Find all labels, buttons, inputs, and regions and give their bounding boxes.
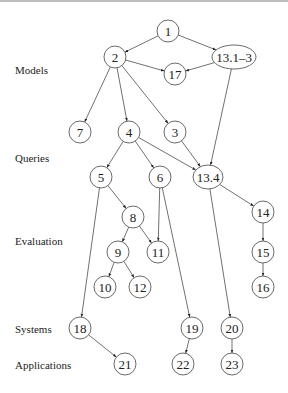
- node-label: 7: [77, 125, 84, 140]
- level-label-models: Models: [15, 64, 48, 76]
- edge-6-to-11: [158, 188, 159, 241]
- node-label: 9: [115, 245, 122, 260]
- edge-4-to-6: [135, 141, 154, 168]
- edge-13.4-to-14: [220, 184, 254, 206]
- edge-9-to-10: [109, 262, 114, 276]
- node-label: 21: [119, 357, 132, 372]
- level-labels: ModelsQueriesEvaluationSystemsApplicatio…: [15, 64, 71, 371]
- edge-2-to-7: [85, 67, 111, 122]
- node-22: 22: [172, 353, 194, 375]
- edge-4-to-13.4: [139, 137, 196, 170]
- node-16: 16: [252, 276, 274, 298]
- node-label: 16: [257, 280, 271, 295]
- node-label: 10: [99, 280, 112, 295]
- edge-5-to-18: [82, 188, 100, 317]
- node-label: 5: [98, 170, 105, 185]
- edge-18-to-21: [89, 335, 117, 357]
- node-11: 11: [147, 241, 169, 263]
- edge-4-to-5: [107, 141, 123, 167]
- node-8: 8: [122, 206, 144, 228]
- edge-9-to-12: [124, 261, 134, 277]
- node-10: 10: [94, 276, 116, 298]
- node-label: 18: [74, 321, 87, 336]
- edge-2-to-4: [117, 68, 127, 121]
- level-label-queries: Queries: [15, 152, 49, 164]
- node-9: 9: [107, 241, 129, 263]
- edge-1-to-13.1-3: [178, 35, 216, 50]
- nodes: 1213.1–3177435613.4814911151012161819202…: [69, 20, 274, 375]
- node-label: 12: [134, 280, 147, 295]
- node-label: 14: [257, 205, 271, 220]
- node-21: 21: [114, 353, 136, 375]
- level-label-evaluation: Evaluation: [15, 235, 63, 247]
- node-13.4: 13.4: [193, 165, 223, 189]
- edge-13.1-3-to-13.4: [211, 69, 232, 165]
- node-label: 2: [112, 50, 119, 65]
- node-label: 19: [186, 321, 199, 336]
- edge-2-to-17: [126, 60, 165, 71]
- node-23: 23: [221, 353, 243, 375]
- node-label: 11: [152, 245, 165, 260]
- node-17: 17: [164, 63, 186, 85]
- node-label: 13.1–3: [216, 50, 252, 65]
- edge-2-to-3: [122, 66, 168, 124]
- node-label: 17: [169, 67, 183, 82]
- node-label: 6: [157, 170, 164, 185]
- level-label-applications: Applications: [15, 359, 71, 371]
- node-label: 13.4: [197, 170, 220, 185]
- node-2: 2: [104, 46, 126, 68]
- node-18: 18: [69, 317, 91, 339]
- node-label: 15: [257, 245, 270, 260]
- node-20: 20: [221, 317, 243, 339]
- level-label-systems: Systems: [15, 323, 52, 335]
- node-13.1-3: 13.1–3: [212, 45, 256, 69]
- edge-8-to-11: [139, 226, 151, 243]
- node-15: 15: [252, 241, 274, 263]
- node-label: 3: [172, 125, 179, 140]
- node-label: 8: [130, 210, 137, 225]
- node-label: 1: [165, 24, 172, 39]
- edge-19-to-22: [186, 339, 190, 354]
- edge-8-to-9: [122, 227, 128, 242]
- node-3: 3: [164, 121, 186, 143]
- edge-1-to-2: [125, 36, 158, 52]
- node-label: 23: [226, 357, 239, 372]
- node-12: 12: [129, 276, 151, 298]
- node-14: 14: [252, 201, 274, 223]
- edge-13.1-3-to-17: [186, 63, 215, 71]
- node-1: 1: [157, 20, 179, 42]
- node-7: 7: [69, 121, 91, 143]
- node-label: 4: [126, 125, 133, 140]
- node-label: 20: [226, 321, 239, 336]
- edge-5-to-8: [108, 186, 126, 209]
- node-5: 5: [90, 166, 112, 188]
- node-label: 22: [177, 357, 190, 372]
- edge-13.4-to-20: [210, 189, 230, 317]
- node-4: 4: [118, 121, 140, 143]
- edge-3-to-13.4: [182, 141, 201, 167]
- dependency-diagram: ModelsQueriesEvaluationSystemsApplicatio…: [0, 0, 288, 393]
- node-19: 19: [181, 317, 203, 339]
- node-6: 6: [149, 166, 171, 188]
